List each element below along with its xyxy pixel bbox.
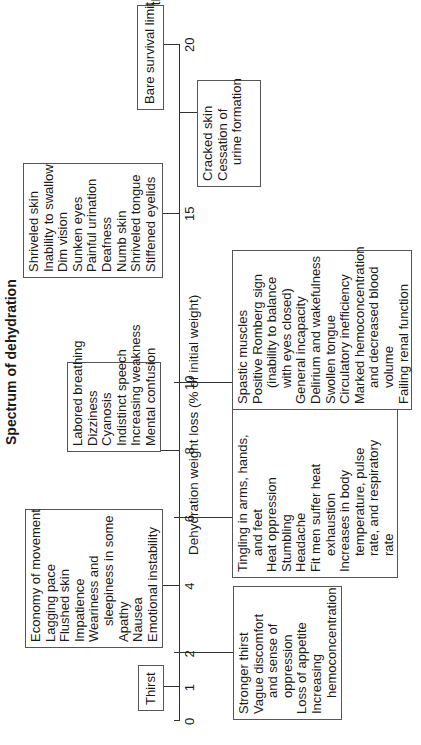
symptom-box-at18: Cracked skinCessation ofurine formation [197, 80, 261, 187]
symptom-line: Impatience [73, 515, 88, 642]
symptom-box-at2: Stronger thirstVague discomfortand sense… [233, 586, 342, 720]
symptom-box-at15: Shriveled skinInability to swallowDim vi… [23, 163, 163, 278]
symptom-line: with eyes closed) [280, 256, 295, 404]
symptom-box-thirst: Thirst [138, 665, 164, 711]
symptom-line: Indistinct speech [115, 368, 130, 446]
axis-tick-label: 0 [183, 718, 196, 725]
symptom-box-at4: Economy of movementLagging paceFlushed s… [25, 509, 163, 648]
axis-tick [174, 585, 179, 586]
symptom-line: rate [382, 405, 397, 572]
axis-tick-label: 4 [183, 583, 196, 590]
axis-tick-label: 8 [183, 447, 196, 454]
symptom-line: exhaustion [324, 405, 339, 572]
symptom-line: Painful urination [85, 169, 100, 272]
symptom-line: sleepiness in some [102, 515, 117, 642]
symptom-line: Nausea [131, 515, 146, 642]
symptom-box-at20: Bare survival limit [137, 5, 164, 110]
symptom-box-at6: Tingling in arms, hands,and feetHeat opp… [232, 399, 398, 578]
axis-tick [174, 44, 179, 45]
symptom-line: Headache [294, 405, 309, 572]
symptom-line: Increasing [310, 592, 325, 714]
symptom-line: Vague discomfort [252, 592, 267, 714]
axis-tick [174, 517, 179, 518]
symptom-line: volume [382, 256, 397, 404]
diagram-title: Spectrum of dehydration [3, 279, 19, 445]
symptom-line: Delirium and wakefulness [309, 256, 324, 404]
axis-tick-label: 2 [183, 650, 196, 657]
symptom-line: Heat oppression [265, 405, 280, 572]
symptom-line: Mental confusion [144, 368, 159, 446]
symptom-line: Fit men suffer heat [309, 405, 324, 572]
symptom-line: Emotional instability [146, 515, 161, 642]
symptom-line: Numb skin [115, 169, 130, 272]
axis-tick [174, 213, 179, 214]
symptom-line: oppression [281, 592, 296, 714]
axis-tick-label: 6 [183, 515, 196, 522]
symptom-line: Spastic muscles [236, 256, 251, 404]
symptom-line: Shriveled tongue [129, 169, 144, 272]
symptom-line: temperature, pulse [353, 405, 368, 572]
symptom-line: (inability to balance [265, 256, 280, 404]
symptom-line: Circulatory inefficiency [338, 256, 353, 404]
symptom-line: Stumbling [280, 405, 295, 572]
symptom-line: Shriveled skin [27, 169, 42, 272]
symptom-line: and decreased blood [367, 256, 382, 404]
symptom-line: Stronger thirst [237, 592, 252, 714]
symptom-line: Dizziness [86, 368, 101, 446]
symptom-line: Cracked skin [201, 86, 216, 181]
dehydration-diagram: Spectrum of dehydration Dehydration weig… [0, 0, 421, 745]
symptom-line: Apathy [117, 515, 132, 642]
symptom-line: rate, and respiratory [367, 405, 382, 572]
symptom-line: Cessation of [216, 86, 231, 181]
symptom-line: Inability to swallow [42, 169, 57, 272]
symptom-line: Stiffened eyelids [144, 169, 159, 272]
symptom-line: Increases in body [338, 405, 353, 572]
symptom-box-at10: Spastic musclesPositive Romberg sign(ina… [232, 250, 412, 410]
symptom-line: Failing renal function [397, 256, 412, 404]
axis-tick-label: 10 [183, 376, 196, 390]
axis-tick-label: 15 [183, 207, 196, 221]
axis-tick [174, 720, 179, 721]
symptom-box-at8: Labored breathingDizzinessCyanosisIndist… [67, 362, 161, 452]
symptom-line: Bare survival limit [143, 11, 158, 104]
symptom-line: Swollen tongue [324, 256, 339, 404]
symptom-line: Tingling in arms, hands, [236, 405, 251, 572]
axis-tick [174, 450, 179, 451]
symptom-line: Deafness [100, 169, 115, 272]
symptom-line: Lagging pace [44, 515, 59, 642]
symptom-line: Loss of appetite [295, 592, 310, 714]
symptom-line: Flushed skin [58, 515, 73, 642]
symptom-line: hemoconcentration [325, 592, 340, 714]
symptom-line: Increasing weakness [129, 368, 144, 446]
symptom-line: Marked hemoconcentration [353, 256, 368, 404]
symptom-line: Positive Romberg sign [251, 256, 266, 404]
symptom-line: Sunken eyes [71, 169, 86, 272]
axis-tick [174, 652, 179, 653]
branch-line [179, 45, 180, 214]
symptom-line: Thirst [144, 671, 159, 705]
symptom-line: Dim vision [56, 169, 71, 272]
axis-tick [174, 686, 179, 687]
connector-line [179, 112, 197, 113]
axis-tick-label: 20 [183, 38, 196, 52]
symptom-line: Economy of movement [29, 515, 44, 642]
symptom-line: Labored breathing [71, 368, 86, 446]
symptom-line: urine formation [230, 86, 245, 181]
symptom-line: Weariness and [87, 515, 102, 642]
axis-tick-label: 1 [183, 684, 196, 691]
symptom-line: Cyanosis [100, 368, 115, 446]
symptom-line: General incapacity [294, 256, 309, 404]
symptom-line: and sense of [266, 592, 281, 714]
axis-tick [174, 382, 179, 383]
symptom-line: and feet [251, 405, 266, 572]
